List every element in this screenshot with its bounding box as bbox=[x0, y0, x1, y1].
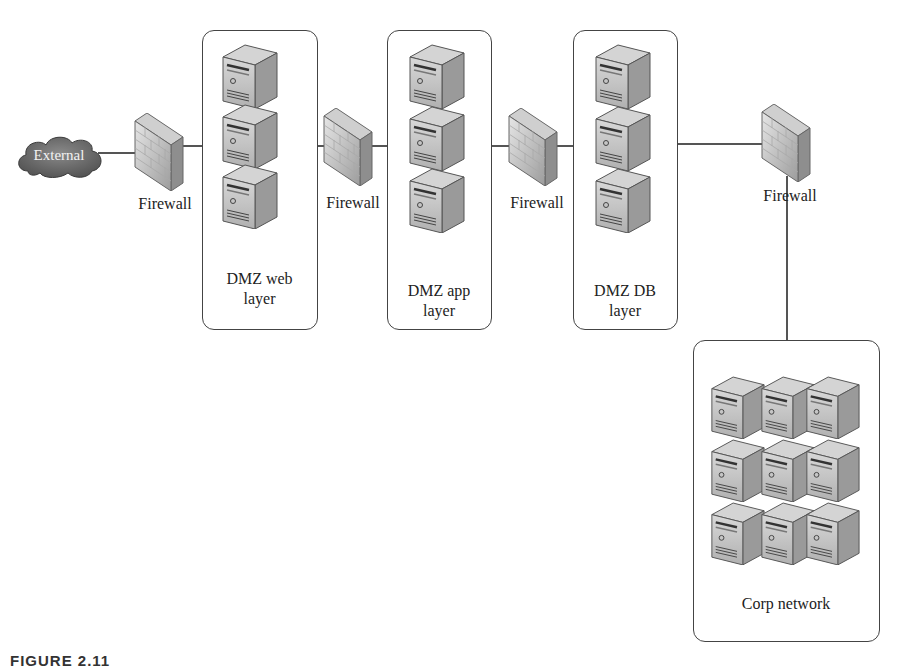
server-icon bbox=[592, 105, 652, 171]
server-icon bbox=[219, 103, 279, 169]
firewall-2-label: Firewall bbox=[318, 193, 388, 213]
firewall-icon bbox=[322, 108, 374, 186]
dmz-app-layer-box: DMZ app layer bbox=[387, 30, 492, 330]
server-icon bbox=[219, 43, 279, 109]
firewall-1 bbox=[133, 113, 185, 191]
dmz-db-layer-box: DMZ DB layer bbox=[573, 30, 678, 330]
corp-network-label: Corp network bbox=[694, 594, 878, 614]
dmz-web-layer-box: DMZ web layer bbox=[202, 30, 318, 330]
dmz-db-label-line1: DMZ DB bbox=[574, 281, 676, 301]
firewall-icon bbox=[507, 108, 559, 186]
server-icon bbox=[803, 375, 861, 439]
firewall-4-label: Firewall bbox=[755, 186, 825, 206]
server-icon bbox=[592, 167, 652, 233]
server-icon bbox=[406, 43, 466, 109]
link-external-firewall1 bbox=[98, 152, 138, 154]
firewall-icon bbox=[133, 113, 185, 191]
external-label: External bbox=[14, 145, 104, 165]
external-node: External bbox=[14, 133, 104, 179]
figure-caption: FIGURE 2.11 bbox=[10, 652, 110, 666]
firewall-3-label: Firewall bbox=[502, 193, 572, 213]
firewall-2 bbox=[322, 108, 374, 186]
server-icon bbox=[406, 105, 466, 171]
server-icon bbox=[219, 163, 279, 229]
firewall-3 bbox=[507, 108, 559, 186]
dmz-db-label-line2: layer bbox=[574, 301, 676, 321]
server-icon bbox=[803, 438, 861, 502]
dmz-web-label-line1: DMZ web bbox=[203, 269, 316, 289]
server-icon bbox=[803, 501, 861, 565]
server-icon bbox=[406, 167, 466, 233]
firewall-icon bbox=[760, 104, 812, 182]
dmz-app-label-line2: layer bbox=[388, 301, 490, 321]
firewall-1-label: Firewall bbox=[130, 194, 200, 214]
firewall-4 bbox=[760, 104, 812, 182]
dmz-web-label-line2: layer bbox=[203, 289, 316, 309]
link-db-firewall4 bbox=[677, 143, 764, 145]
server-icon bbox=[592, 43, 652, 109]
corp-network-box: Corp network bbox=[693, 340, 880, 642]
dmz-app-label-line1: DMZ app bbox=[388, 281, 490, 301]
